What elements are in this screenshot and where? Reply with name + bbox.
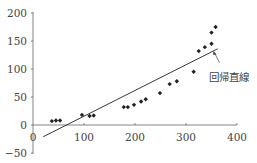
x-tick-label: 400: [227, 131, 247, 143]
data-point: [139, 99, 143, 103]
data-point: [58, 118, 62, 122]
data-point: [144, 97, 148, 101]
x-tick-label: 100: [74, 131, 94, 143]
y-tick-label: 0: [20, 119, 27, 131]
y-tick-label: 150: [7, 35, 27, 47]
data-point: [209, 42, 213, 46]
data-point: [91, 113, 95, 117]
y-tick-label: −50: [5, 147, 27, 159]
data-point: [158, 91, 162, 95]
x-tick-label: 300: [176, 131, 196, 143]
data-point: [191, 70, 195, 74]
data-point: [167, 82, 171, 86]
data-point: [126, 105, 130, 109]
data-point: [203, 45, 207, 49]
data-point: [122, 105, 126, 109]
data-point: [54, 118, 58, 122]
x-tick-label: 200: [125, 131, 145, 143]
x-tick-label: 0: [30, 131, 37, 143]
regression-line-label: 回帰直線: [209, 71, 250, 83]
y-tick-label: 200: [7, 7, 27, 19]
regression-line: [43, 49, 217, 137]
data-point: [209, 30, 213, 34]
data-point: [197, 49, 201, 53]
data-point: [175, 79, 179, 83]
scatter-chart: 200150100500−500100200300400回帰直線: [0, 0, 257, 163]
data-point: [213, 25, 217, 29]
data-point: [132, 103, 136, 107]
y-tick-label: 100: [7, 63, 27, 75]
data-point: [50, 119, 54, 123]
y-tick-label: 50: [14, 91, 27, 103]
